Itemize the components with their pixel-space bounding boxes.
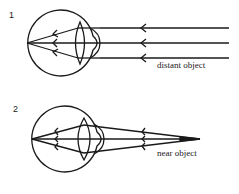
label-near-object: near object xyxy=(157,148,197,158)
eye-near-illustration xyxy=(0,0,239,194)
